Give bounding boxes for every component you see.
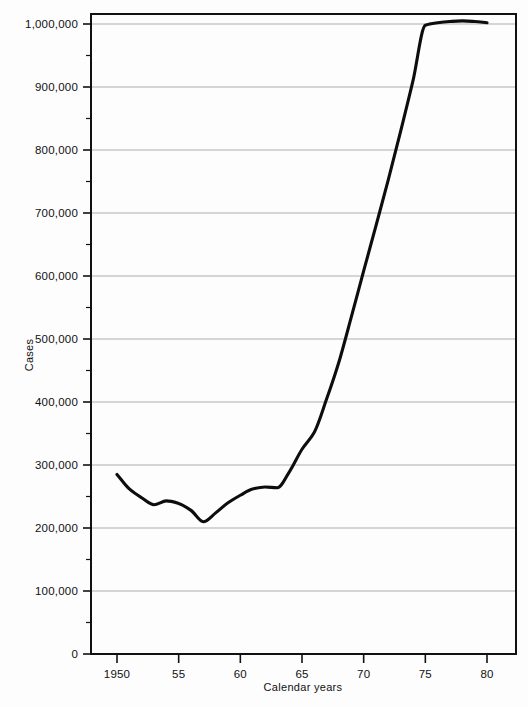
x-tick-label: 70 bbox=[357, 668, 370, 680]
y-tick-label: 900,000 bbox=[35, 81, 78, 93]
y-tick-label: 100,000 bbox=[35, 585, 78, 597]
figure-background bbox=[0, 0, 528, 707]
x-tick-label: 75 bbox=[419, 668, 432, 680]
y-tick-label: 0 bbox=[71, 648, 78, 660]
x-tick-label: 55 bbox=[172, 668, 185, 680]
x-axis-title: Calendar years bbox=[264, 681, 343, 693]
y-tick-label: 800,000 bbox=[35, 144, 78, 156]
y-tick-label: 200,000 bbox=[35, 522, 78, 534]
cases-vs-calendar-years-line-chart: 0100,000200,000300,000400,000500,000600,… bbox=[0, 0, 528, 707]
y-tick-label: 600,000 bbox=[35, 270, 78, 282]
x-tick-label: 65 bbox=[295, 668, 308, 680]
x-tick-label: 60 bbox=[234, 668, 247, 680]
y-tick-label: 400,000 bbox=[35, 396, 78, 408]
y-tick-label: 1,000,000 bbox=[25, 18, 78, 30]
x-tick-label: 80 bbox=[480, 668, 493, 680]
y-tick-label: 500,000 bbox=[35, 333, 78, 345]
chart-figure: 0100,000200,000300,000400,000500,000600,… bbox=[0, 0, 528, 707]
y-tick-label: 300,000 bbox=[35, 459, 78, 471]
x-tick-label: 1950 bbox=[104, 668, 130, 680]
y-axis-title: Cases bbox=[23, 338, 35, 371]
y-tick-label: 700,000 bbox=[35, 207, 78, 219]
